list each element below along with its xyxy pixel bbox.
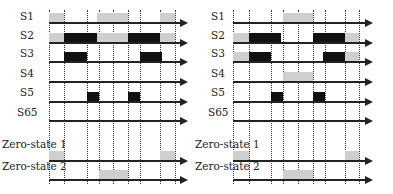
switch-on-pulse <box>249 52 271 61</box>
signal-label: Zero-state 2 <box>195 161 260 172</box>
zero-state-interval <box>345 52 359 61</box>
time-axis <box>233 42 365 44</box>
signal-label: S65 <box>17 107 38 118</box>
switch-on-pulse <box>87 92 99 101</box>
arrow-right-icon <box>365 117 373 125</box>
switch-on-pulse <box>128 92 140 101</box>
zero-state-interval <box>283 72 313 81</box>
signal-label: S2 <box>20 30 34 41</box>
zero-state-interval <box>233 151 249 160</box>
zero-state-interval <box>49 151 64 160</box>
switch-on-pulse <box>249 33 281 42</box>
arrow-right-icon <box>180 39 188 47</box>
signal-label: S4 <box>20 68 34 79</box>
time-axis <box>49 160 180 162</box>
switch-on-pulse <box>128 33 160 42</box>
right-timing-diagram: S1S2S3S4S5S65Zero-state 1Zero-state 2 <box>196 0 393 194</box>
time-axis <box>49 42 180 44</box>
zero-state-interval <box>160 33 175 42</box>
zero-state-interval <box>99 170 128 179</box>
time-axis <box>49 81 180 83</box>
zero-state-interval <box>233 52 249 61</box>
zero-state-interval <box>97 33 128 42</box>
switch-on-pulse <box>313 92 325 101</box>
arrow-right-icon <box>365 58 373 66</box>
arrow-right-icon <box>365 39 373 47</box>
arrow-right-icon <box>365 98 373 106</box>
switch-on-pulse <box>64 33 97 42</box>
time-axis <box>233 61 365 63</box>
time-marker-line <box>298 10 299 184</box>
time-axis <box>49 101 180 103</box>
switch-on-pulse <box>313 33 345 42</box>
signal-label: S3 <box>211 48 225 59</box>
time-marker-line <box>175 10 176 184</box>
signal-label: S5 <box>211 87 225 98</box>
signal-label: Zero-state 2 <box>2 161 67 172</box>
signal-label: S1 <box>211 11 225 22</box>
signal-label: S65 <box>208 107 229 118</box>
signal-label: S2 <box>211 30 225 41</box>
zero-state-interval <box>283 13 313 22</box>
zero-state-interval <box>160 151 175 160</box>
signal-label: S1 <box>20 11 34 22</box>
switch-on-pulse <box>64 52 87 61</box>
time-axis <box>49 61 180 63</box>
time-axis <box>49 179 180 181</box>
zero-state-interval <box>345 33 359 42</box>
switch-on-pulse <box>271 92 283 101</box>
time-marker-line <box>283 10 284 184</box>
switch-on-pulse <box>323 52 345 61</box>
arrow-right-icon <box>365 157 373 165</box>
arrow-right-icon <box>180 176 188 184</box>
arrow-right-icon <box>365 78 373 86</box>
zero-state-interval <box>283 170 313 179</box>
arrow-right-icon <box>180 157 188 165</box>
zero-state-interval <box>49 33 64 42</box>
time-marker-line <box>359 10 360 184</box>
left-timing-diagram: S1S2S3S4S5S65Zero-state 1Zero-state 2 <box>0 0 196 194</box>
arrow-right-icon <box>180 98 188 106</box>
time-axis <box>233 101 365 103</box>
time-axis <box>233 120 365 122</box>
time-axis <box>233 22 365 24</box>
signal-label: S4 <box>211 68 225 79</box>
time-axis <box>233 81 365 83</box>
time-axis <box>49 120 180 122</box>
time-axis <box>233 179 365 181</box>
arrow-right-icon <box>365 19 373 27</box>
switch-on-pulse <box>140 52 162 61</box>
zero-state-interval <box>345 151 359 160</box>
signal-label: Zero-state 1 <box>195 139 260 150</box>
zero-state-interval <box>97 13 128 22</box>
zero-state-interval <box>49 13 64 22</box>
zero-state-interval <box>233 33 249 42</box>
time-axis <box>49 22 180 24</box>
arrow-right-icon <box>180 19 188 27</box>
arrow-right-icon <box>365 176 373 184</box>
arrow-right-icon <box>180 58 188 66</box>
zero-state-interval <box>160 13 175 22</box>
arrow-right-icon <box>180 117 188 125</box>
signal-label: S3 <box>20 48 34 59</box>
signal-label: S5 <box>20 87 34 98</box>
arrow-right-icon <box>180 78 188 86</box>
signal-label: Zero-state 1 <box>2 139 67 150</box>
